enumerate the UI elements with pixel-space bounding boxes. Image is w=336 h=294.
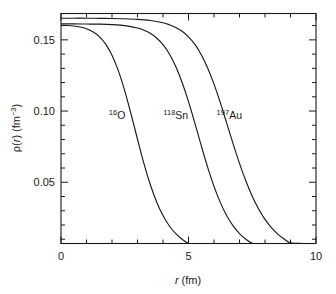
x-axis-tick-labels: 0510	[58, 250, 322, 262]
y-axis-title-unit-base: (fm	[10, 116, 22, 132]
x-tick-label: 0	[58, 250, 64, 262]
curve-annotations: 16O118Sn197Au	[109, 108, 242, 121]
y-axis-minor-ticks	[61, 26, 316, 240]
figure-container: 0510 0.050.100.15 16O118Sn197Au r(fm) ρ(…	[0, 0, 336, 294]
curve-label-118Sn: 118Sn	[163, 108, 188, 121]
x-axis-title-variable: r	[175, 274, 180, 286]
curve-label-mass-number: 118	[163, 108, 175, 117]
x-axis-title: r(fm)	[175, 274, 201, 286]
curve-label-mass-number: 197	[217, 108, 230, 117]
density-curve-197Au	[61, 18, 316, 243]
y-axis-major-ticks	[61, 40, 316, 182]
density-curves	[61, 18, 316, 244]
x-axis-major-ticks	[61, 14, 316, 244]
y-axis-title: ρ(r)(fm−3)	[9, 104, 22, 152]
y-tick-label: 0.05	[34, 176, 55, 188]
y-axis-title-unit-exponent: −3	[9, 107, 18, 116]
x-tick-label: 5	[185, 250, 191, 262]
curve-label-element-symbol: Sn	[175, 109, 188, 121]
plot-frame	[61, 14, 316, 244]
x-tick-label: 10	[310, 250, 322, 262]
density-curve-118Sn	[61, 24, 316, 244]
y-axis-title-unit-close: )	[10, 104, 22, 108]
curve-label-element-symbol: Au	[229, 109, 242, 121]
nuclear-density-chart: 0510 0.050.100.15 16O118Sn197Au r(fm) ρ(…	[0, 0, 336, 294]
curve-label-197Au: 197Au	[217, 108, 243, 121]
y-tick-label: 0.15	[34, 34, 55, 46]
x-axis-minor-ticks	[87, 14, 291, 244]
curve-label-16O: 16O	[109, 108, 126, 121]
curve-label-mass-number: 16	[109, 108, 117, 117]
y-tick-label: 0.10	[34, 105, 55, 117]
x-axis-title-unit: (fm)	[182, 274, 202, 286]
y-axis-tick-labels: 0.050.100.15	[34, 34, 55, 188]
density-curve-16O	[61, 25, 316, 243]
curve-label-element-symbol: O	[117, 109, 125, 121]
